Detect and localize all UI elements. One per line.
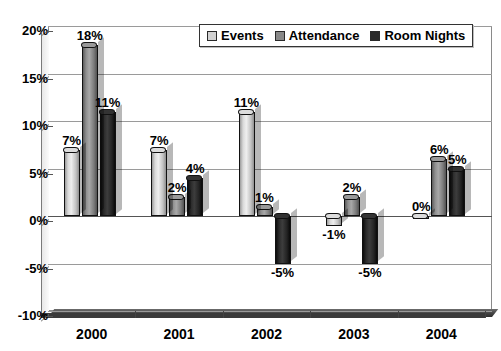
value-label: 1% [242, 191, 288, 204]
bar-events-2000[interactable] [64, 150, 80, 217]
bar-body [275, 216, 291, 264]
value-label: 11% [224, 96, 270, 109]
bar-room-nights-2002[interactable] [275, 216, 291, 264]
value-label: 2% [154, 181, 200, 194]
value-label: 2% [329, 181, 375, 194]
bar-top-cap [325, 213, 341, 219]
value-label: 0% [398, 200, 444, 213]
bar-top-cap [274, 213, 290, 219]
value-label: 4% [172, 162, 218, 175]
bar-side-face [465, 161, 471, 213]
bar-side-face [167, 142, 173, 213]
value-label: 18% [67, 29, 113, 42]
bar-body [64, 150, 80, 217]
legend-swatch-attendance-icon [275, 31, 285, 41]
legend-label-events: Events [221, 28, 264, 43]
value-label: -1% [311, 228, 357, 241]
value-label: 11% [85, 96, 131, 109]
bar-body [362, 216, 378, 264]
bar-room-nights-2003[interactable] [362, 216, 378, 264]
value-label: 7% [49, 134, 95, 147]
legend-label-attendance: Attendance [289, 28, 360, 43]
bar-series-group [0, 0, 501, 351]
bar-events-2004[interactable] [413, 216, 429, 219]
value-label: -5% [347, 266, 393, 279]
legend-item-room-nights[interactable]: Room Nights [370, 28, 465, 43]
bar-top-cap [361, 213, 377, 219]
bar-side-face [203, 170, 209, 213]
bar-side-face [342, 208, 348, 222]
chart-3d-column: 20%15%10%5%0%-5%-10% 2000200120022003200… [0, 0, 501, 351]
value-label: 7% [136, 134, 182, 147]
chart-legend: Events Attendance Room Nights [199, 24, 473, 47]
value-label: 5% [434, 153, 480, 166]
value-label: -5% [260, 266, 306, 279]
legend-item-attendance[interactable]: Attendance [275, 28, 360, 43]
bar-side-face [291, 208, 297, 260]
bar-side-face [378, 208, 384, 260]
legend-swatch-room-nights-icon [370, 31, 380, 41]
bar-events-2003[interactable] [326, 216, 342, 226]
bar-side-face [98, 37, 104, 213]
legend-swatch-events-icon [207, 31, 217, 41]
bar-side-face [80, 142, 86, 213]
legend-item-events[interactable]: Events [207, 28, 264, 43]
legend-label-room-nights: Room Nights [384, 28, 465, 43]
bar-side-face [116, 104, 122, 213]
